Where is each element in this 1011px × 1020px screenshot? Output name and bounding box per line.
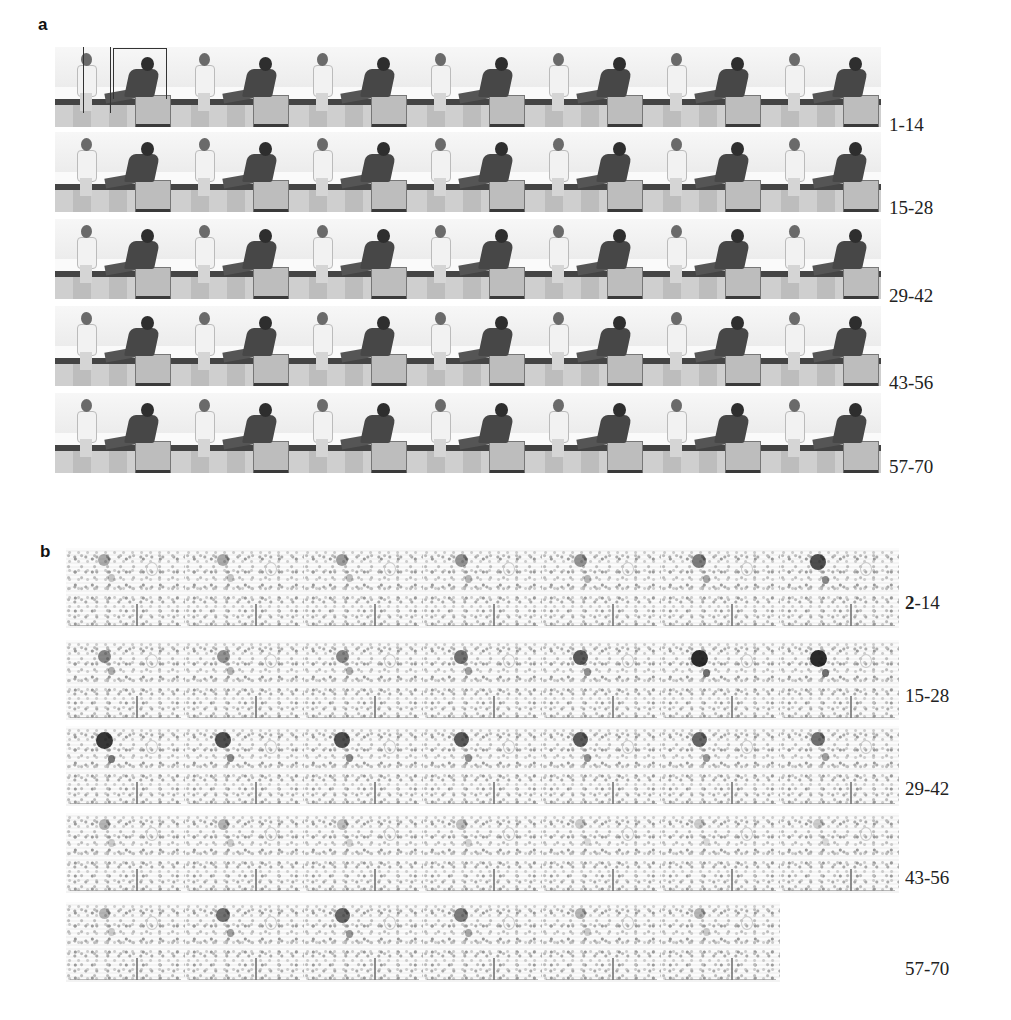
video-frame [645, 132, 763, 212]
row-label-b-5: 57-70 [905, 958, 949, 980]
difference-frame [542, 813, 661, 893]
difference-strip-b-4 [66, 813, 899, 893]
video-frame [291, 306, 409, 386]
panel-a-label: a [38, 15, 47, 35]
difference-frame [66, 902, 185, 982]
row-label-b-1: 2-14 [905, 592, 940, 614]
video-frame [55, 132, 173, 212]
girl-region-bracket [83, 47, 111, 113]
video-frame [55, 306, 173, 386]
video-frame [409, 47, 527, 127]
frame-strip-a-2 [55, 132, 881, 212]
video-frame [173, 132, 291, 212]
video-frame [645, 47, 763, 127]
video-frame [527, 132, 645, 212]
row-label-b-4: 43-56 [905, 867, 949, 889]
difference-frame [423, 726, 542, 806]
row-label-a-1: 1-14 [889, 114, 924, 136]
row-label-b-2: 15-28 [905, 685, 949, 707]
difference-frame [185, 548, 304, 628]
video-frame [763, 132, 881, 212]
difference-frame [66, 813, 185, 893]
difference-frame [661, 640, 780, 720]
video-frame [291, 219, 409, 299]
row-label-a-2: 15-28 [889, 197, 933, 219]
video-frame [291, 47, 409, 127]
difference-frame [542, 548, 661, 628]
video-frame [527, 47, 645, 127]
video-frame [173, 47, 291, 127]
panel-b-label: b [40, 542, 50, 562]
difference-frame [661, 813, 780, 893]
difference-strip-b-5 [66, 902, 780, 982]
row-label-b-3: 29-42 [905, 778, 949, 800]
video-frame [527, 219, 645, 299]
difference-frame [780, 813, 899, 893]
difference-frame [661, 548, 780, 628]
difference-frame [423, 902, 542, 982]
difference-frame [185, 813, 304, 893]
difference-frame [780, 548, 899, 628]
difference-frame [780, 640, 899, 720]
difference-frame [185, 726, 304, 806]
difference-frame [661, 726, 780, 806]
difference-frame [304, 726, 423, 806]
difference-frame [304, 640, 423, 720]
video-frame [409, 219, 527, 299]
difference-frame [542, 640, 661, 720]
difference-strip-b-2 [66, 640, 899, 720]
video-frame [763, 47, 881, 127]
frame-strip-a-5 [55, 393, 881, 473]
difference-frame [304, 813, 423, 893]
frame-strip-a-1 [55, 47, 881, 127]
difference-frame [185, 640, 304, 720]
difference-frame [66, 640, 185, 720]
difference-frame [304, 548, 423, 628]
row-label-b-1-bold: 2 [905, 592, 915, 613]
video-frame [527, 393, 645, 473]
row-label-a-4: 43-56 [889, 372, 933, 394]
difference-frame [66, 726, 185, 806]
difference-frame [423, 813, 542, 893]
boy-region-bracket [113, 48, 167, 99]
row-label-a-3: 29-42 [889, 285, 933, 307]
difference-strip-b-3 [66, 726, 899, 806]
video-frame [409, 306, 527, 386]
video-frame [527, 306, 645, 386]
video-frame [173, 393, 291, 473]
video-frame [291, 393, 409, 473]
video-frame [173, 306, 291, 386]
video-frame [409, 393, 527, 473]
video-frame [409, 132, 527, 212]
difference-frame [542, 726, 661, 806]
difference-frame [66, 548, 185, 628]
difference-frame [423, 640, 542, 720]
video-frame [55, 393, 173, 473]
video-frame [763, 393, 881, 473]
row-label-a-5: 57-70 [889, 456, 933, 478]
row-label-b-1-rest: -14 [915, 592, 940, 613]
difference-frame [185, 902, 304, 982]
difference-frame [661, 902, 780, 982]
frame-strip-a-3 [55, 219, 881, 299]
video-frame [55, 219, 173, 299]
video-frame [645, 393, 763, 473]
video-frame [291, 132, 409, 212]
video-frame [645, 219, 763, 299]
difference-frame [423, 548, 542, 628]
difference-frame [542, 902, 661, 982]
difference-frame [304, 902, 423, 982]
difference-strip-b-1 [66, 548, 899, 628]
frame-strip-a-4 [55, 306, 881, 386]
difference-frame [780, 726, 899, 806]
video-frame [763, 219, 881, 299]
video-frame [173, 219, 291, 299]
video-frame [645, 306, 763, 386]
video-frame [763, 306, 881, 386]
